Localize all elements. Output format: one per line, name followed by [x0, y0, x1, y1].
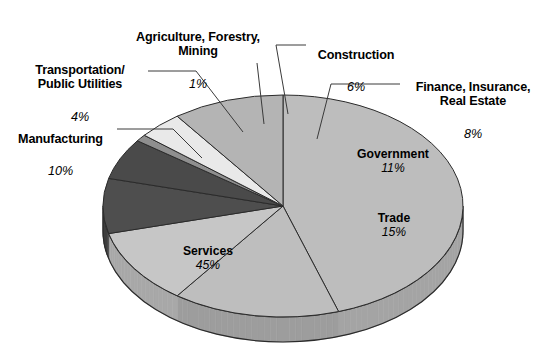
pie-slice-side: [442, 255, 445, 283]
pie-slice-side: [264, 316, 270, 341]
callout-transportation-label: Transportation/ Public Utilities: [12, 63, 148, 91]
pie-slice-side: [177, 296, 182, 323]
pie-slice-side: [333, 312, 339, 338]
pie-slice-side: [252, 315, 258, 341]
pie-slice-side: [327, 313, 333, 339]
pie-slice-side: [384, 296, 389, 323]
pie-slice-side: [199, 304, 205, 331]
pie-slice-side: [378, 298, 383, 325]
inner-label-trade: Trade 15%: [362, 211, 426, 239]
pie-slice-side: [221, 310, 227, 336]
pie-slice-side: [134, 268, 138, 296]
inner-label-trade-value: 15%: [362, 225, 426, 239]
pie-slice-side: [131, 265, 134, 293]
pie-slice-side: [122, 255, 125, 283]
pie-slice-side: [145, 278, 149, 306]
pie-slice-side: [138, 272, 142, 300]
pie-slice-side: [403, 286, 408, 314]
pie-slice-side: [296, 316, 302, 341]
callout-finance-value: 8%: [400, 127, 546, 141]
pie-slice-side: [450, 244, 452, 273]
pie-slice-side: [302, 316, 308, 341]
pie-slice-side: [362, 304, 368, 331]
pie-slice-side: [158, 286, 163, 314]
pie-slice-side: [439, 258, 442, 286]
pie-slice-side: [167, 291, 172, 318]
pie-slice-side: [345, 309, 351, 335]
callout-agriculture-value: 1%: [128, 77, 268, 91]
pie-slice-side: [399, 288, 404, 316]
pie-slice-side: [246, 315, 252, 341]
pie-slice-side: [277, 317, 283, 342]
callout-manufacturing-label: Manufacturing: [4, 132, 117, 146]
callout-construction: Construction 6%: [308, 30, 404, 113]
pie-slice-side: [188, 300, 193, 327]
pie-slice-side: [119, 252, 122, 280]
pie-slice-side: [436, 262, 439, 290]
pie-slice-side: [149, 280, 153, 308]
pie-slice-side: [204, 306, 210, 333]
pie-slice-side: [172, 293, 177, 320]
pie-slice-side: [445, 251, 448, 280]
pie-slice-side: [127, 262, 130, 290]
pie-slice-side: [154, 283, 158, 311]
pie-slice-side: [239, 314, 245, 340]
pie-slice-side: [182, 298, 187, 325]
inner-label-government-value: 11%: [341, 161, 445, 175]
pie-slice-side: [163, 289, 168, 317]
pie-slice-side: [373, 300, 378, 327]
pie-slice-side: [114, 245, 116, 274]
pie-slice-side: [283, 317, 289, 342]
pie-slice-side: [233, 313, 239, 339]
pie-slice-side: [412, 280, 416, 308]
callout-agriculture-label: Agriculture, Forestry, Mining: [128, 30, 268, 58]
callout-construction-label: Construction: [308, 48, 404, 62]
pie-slice-side: [116, 248, 118, 277]
pie-slice-side: [389, 293, 394, 320]
callout-agriculture: Agriculture, Forestry, Mining 1%: [128, 12, 268, 109]
pie-slice-side: [429, 268, 433, 296]
pie-slice-side: [193, 302, 199, 329]
pie-slice-side: [314, 315, 320, 341]
inner-label-government: Government 11%: [341, 147, 445, 175]
pie-slice-side: [421, 274, 425, 302]
pie-slice-side: [356, 306, 362, 333]
callout-manufacturing: Manufacturing 10%: [4, 114, 117, 197]
pie-slice-side: [227, 312, 233, 338]
callout-finance: Finance, Insurance, Real Estate 8%: [400, 62, 546, 159]
callout-finance-label: Finance, Insurance, Real Estate: [400, 80, 546, 108]
pie-slice-side: [308, 315, 314, 341]
inner-label-services-label: Services: [165, 244, 251, 258]
pie-slice-side: [289, 317, 295, 342]
inner-label-government-label: Government: [341, 147, 445, 161]
pie-slice-side: [258, 316, 264, 341]
pie-slice-side: [216, 309, 222, 335]
inner-label-trade-label: Trade: [362, 211, 426, 225]
pie-slice-side: [141, 275, 145, 303]
pie-slice-side: [447, 248, 449, 277]
inner-label-services: Services 45%: [165, 244, 251, 272]
inner-label-services-value: 45%: [165, 258, 251, 272]
pie-slice-side: [320, 314, 326, 340]
callout-construction-value: 6%: [308, 80, 404, 94]
pie-slice-side: [417, 277, 421, 305]
pie-slice-side: [368, 302, 374, 329]
pie-chart-figure: Agriculture, Forestry, Mining 1% Transpo…: [0, 0, 550, 363]
pie-slice-side: [339, 310, 345, 336]
pie-slice-side: [210, 307, 216, 334]
pie-slice-side: [124, 259, 127, 287]
pie-slice-side: [350, 307, 356, 334]
pie-slice-side: [394, 291, 399, 318]
callout-manufacturing-value: 10%: [4, 164, 117, 178]
pie-slice-side: [425, 271, 429, 299]
pie-slice-side: [408, 283, 412, 311]
pie-slice-side: [432, 265, 435, 293]
pie-slice-side: [270, 317, 276, 342]
